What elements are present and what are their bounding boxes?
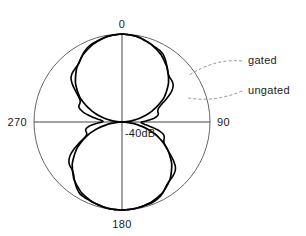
center-radial-label: -40dB (125, 127, 155, 139)
annotation-label-gated: gated (248, 54, 277, 66)
callout-layer (188, 61, 242, 100)
annotation-label-ungated: ungated (248, 84, 290, 96)
angle-tick-label-270: 270 (7, 116, 27, 128)
angle-tick-label-180: 180 (112, 218, 132, 230)
polar-chart: 0 90 180 270 -40dB gated ungated (0, 0, 306, 236)
angle-tick-label-0: 0 (119, 18, 126, 30)
label-layer: 0 90 180 270 -40dB gated ungated (7, 18, 289, 230)
angle-tick-label-90: 90 (217, 116, 230, 128)
leader-line-ungated (188, 91, 242, 99)
leader-line-gated (188, 61, 242, 76)
polar-plot-canvas: 0 90 180 270 -40dB gated ungated (0, 0, 306, 236)
